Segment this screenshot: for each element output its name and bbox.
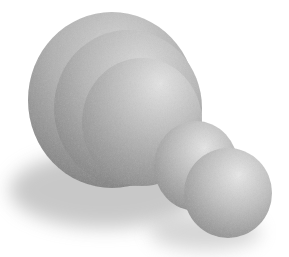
rendered-object-image bbox=[0, 0, 289, 257]
object-illustration bbox=[0, 0, 289, 257]
small-sphere bbox=[184, 148, 272, 238]
